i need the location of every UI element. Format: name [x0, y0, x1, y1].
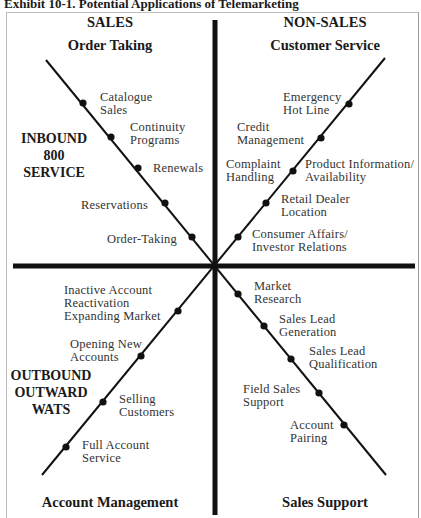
outbound-label: OUTBOUND OUTWARD WATS — [8, 367, 94, 418]
label-inactive-account: Inactive AccountReactivationExpanding Ma… — [64, 284, 161, 323]
inbound-line-2: 800 — [18, 147, 90, 164]
header-order-taking: Order Taking — [50, 37, 170, 54]
header-non-sales: NON-SALES — [265, 14, 385, 31]
header-sales: SALES — [70, 14, 150, 31]
label-sales-lead-generation: Sales LeadGeneration — [279, 313, 337, 339]
inbound-line-1: INBOUND — [18, 130, 90, 147]
outbound-line-1: OUTBOUND — [8, 367, 94, 384]
axes-and-diagonals — [0, 0, 421, 518]
label-complaint-handling: ComplaintHandling — [226, 158, 281, 184]
label-credit-management: CreditManagement — [237, 121, 304, 147]
label-emergency-hot-line: EmergencyHot Line — [283, 91, 342, 117]
label-market-research: MarketResearch — [254, 280, 301, 306]
label-catalogue-sales: CatalogueSales — [100, 91, 152, 117]
label-sales-lead-qualification: Sales LeadQualification — [309, 345, 378, 371]
inbound-label: INBOUND 800 SERVICE — [18, 130, 90, 181]
label-opening-new-accounts: Opening NewAccounts — [70, 338, 142, 364]
header-customer-service: Customer Service — [255, 37, 395, 54]
outbound-line-3: WATS — [8, 401, 94, 418]
label-order-taking: Order-Taking — [107, 233, 177, 246]
label-continuity-programs: ContinuityPrograms — [130, 121, 185, 147]
label-consumer-affairs: Consumer Affairs/Investor Relations — [252, 228, 348, 254]
outbound-line-2: OUTWARD — [8, 384, 94, 401]
label-selling-customers: SellingCustomers — [119, 393, 174, 419]
label-full-account-service: Full AccountService — [82, 439, 149, 465]
label-product-information: Product Information/Availability — [305, 158, 414, 184]
label-field-sales-support: Field SalesSupport — [243, 383, 300, 409]
header-account-management: Account Management — [30, 494, 190, 511]
inbound-line-3: SERVICE — [18, 164, 90, 181]
label-account-pairing: AccountPairing — [290, 419, 334, 445]
header-sales-support: Sales Support — [255, 494, 395, 511]
label-retail-dealer-location: Retail DealerLocation — [281, 193, 350, 219]
label-renewals: Renewals — [153, 162, 203, 175]
label-reservations: Reservations — [81, 199, 148, 212]
